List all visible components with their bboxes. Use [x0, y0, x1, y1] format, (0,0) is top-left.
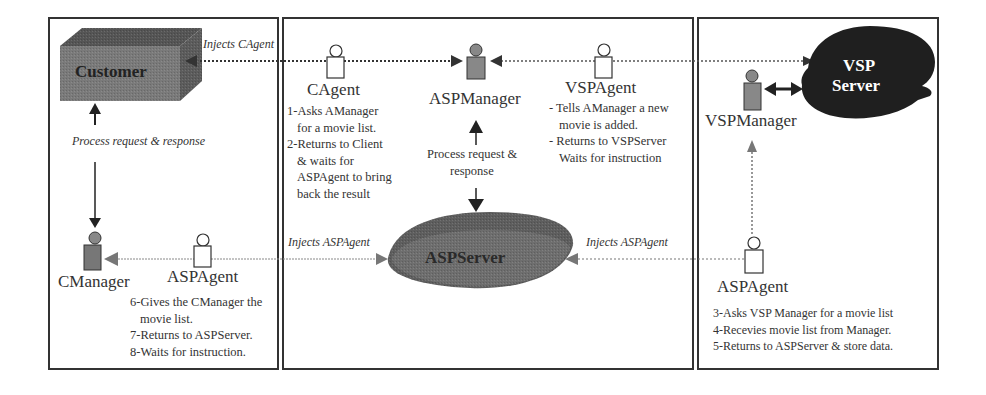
arrow-down-icon: [468, 199, 484, 212]
cagent-notes: 1-Asks AManager for a movie list. 2-Retu…: [287, 103, 427, 202]
arrowhead-icon: [104, 252, 118, 266]
vspagent-figure: [595, 44, 612, 78]
process-asp-label-1: Process request &: [427, 147, 517, 162]
injects-aspagent-right-label: Injects ASPAgent: [586, 235, 668, 250]
arrow-up-icon: [89, 103, 101, 114]
aspagent-client-figure: [194, 234, 211, 267]
vspmanager-label: VSPManager: [705, 111, 797, 131]
aspagent-vsp-notes: 3-Asks VSP Manager for a movie list 4-Re…: [713, 305, 938, 355]
arrowhead-icon: [376, 253, 388, 265]
arrow-up-icon: [469, 120, 483, 133]
injects-cagent-label: Injects CAgent: [203, 37, 274, 52]
vspagent-notes: - Tells AManager a new movie is added. -…: [549, 100, 699, 166]
aspagent-vsp-label: ASPAgent: [717, 277, 788, 297]
aspmanager-label: ASPManager: [429, 89, 521, 109]
aspmanager-figure: [467, 44, 485, 79]
aspagent-client-notes: 6-Gives the CManager the movie list. 7-R…: [130, 294, 280, 360]
arrowhead-icon: [791, 82, 803, 96]
arrowhead-icon: [764, 82, 776, 96]
process-asp-label-2: response: [450, 164, 494, 179]
cagent-label: CAgent: [307, 80, 360, 100]
arrow-up-icon: [747, 140, 757, 152]
vspmanager-figure: [744, 70, 761, 110]
aspagent-vsp-figure: [745, 237, 763, 273]
arrowhead-icon: [451, 55, 463, 67]
customer-label: Customer: [75, 62, 147, 82]
aspagent-client-label: ASPAgent: [167, 267, 238, 287]
aspserver-label: ASPServer: [425, 248, 505, 268]
cmanager-label: CManager: [58, 272, 130, 292]
vspserver-label-1: VSP: [843, 56, 875, 76]
arrow-down-icon: [89, 218, 101, 228]
vspagent-label: VSPAgent: [565, 78, 636, 98]
cagent-figure: [327, 45, 344, 78]
vspserver-label-2: Server: [832, 76, 880, 96]
cmanager-figure: [84, 232, 101, 270]
process-client-label: Process request & response: [72, 134, 205, 149]
injects-aspagent-left-label: Injects ASPAgent: [288, 235, 370, 250]
arrowhead-icon: [490, 55, 502, 67]
